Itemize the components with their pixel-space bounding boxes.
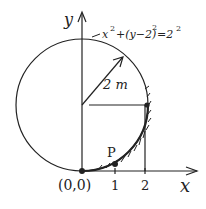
svg-text:2: 2	[176, 24, 181, 33]
origin-label: (0,0)	[58, 177, 91, 193]
point-p-label: P	[107, 145, 116, 160]
circle-equation: x 2 +(y−2) 2 =2 2	[102, 23, 181, 41]
svg-text:+(y−2): +(y−2)	[116, 28, 156, 41]
svg-text:2: 2	[110, 24, 115, 33]
circle-path-diagram: y x (0,0) 1 2 P 2 m x 2 +(y−2) 2 =2 2	[0, 0, 206, 209]
origin-point	[79, 168, 85, 174]
svg-text:x: x	[102, 28, 109, 41]
point-p	[112, 161, 118, 167]
equation-leader	[92, 34, 100, 37]
point-2-2	[144, 102, 149, 107]
svg-text:=2: =2	[157, 28, 173, 41]
tick-label-1: 1	[111, 178, 119, 193]
y-axis-label: y	[63, 10, 74, 29]
tick-label-2: 2	[141, 178, 149, 193]
radius-label: 2 m	[102, 77, 128, 92]
x-axis-label: x	[180, 175, 190, 196]
